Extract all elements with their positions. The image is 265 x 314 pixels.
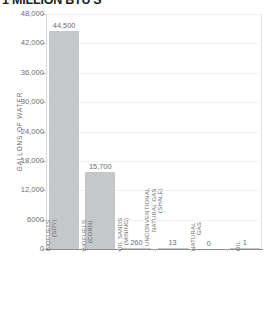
y-tick-label: 18,000 bbox=[4, 156, 44, 165]
y-tick-label: 48,000 bbox=[4, 9, 44, 18]
x-tick-mark bbox=[82, 249, 83, 252]
x-axis-label-text: NATURAL GAS bbox=[190, 222, 203, 251]
y-tick-label: 36,000 bbox=[4, 68, 44, 77]
bar-value-label: 15,700 bbox=[89, 162, 112, 171]
x-axis-label-text: OIL SANDS (MINING) bbox=[117, 218, 130, 251]
y-tick-label: 30,000 bbox=[4, 97, 44, 106]
x-axis-label-text: OIL bbox=[235, 241, 241, 251]
y-tick-label: 12,000 bbox=[4, 185, 44, 194]
y-tick-label: 6000 bbox=[4, 215, 44, 224]
x-axis-label: NATURAL GAS bbox=[191, 251, 227, 314]
x-tick-mark bbox=[118, 249, 119, 252]
bar bbox=[49, 31, 79, 249]
x-axis-labels: BIOFUELS (SOY)BIOFUELS (CORN)OIL SANDS (… bbox=[46, 251, 263, 314]
bar-value-label: 13 bbox=[168, 238, 176, 247]
bar-value-label: 1 bbox=[243, 238, 247, 247]
x-tick-mark bbox=[191, 249, 192, 252]
y-tick-label: 24,000 bbox=[4, 127, 44, 136]
x-axis-label-text: UNCONVENTIONAL NATURAL GAS (SHALE) bbox=[144, 188, 163, 251]
x-tick-mark bbox=[227, 249, 228, 252]
x-tick-mark bbox=[155, 249, 156, 252]
bar-value-label: 260 bbox=[130, 238, 142, 247]
x-axis-label: OIL SANDS (MINING) bbox=[118, 251, 154, 314]
x-axis-label-text: BIOFUELS (SOY) bbox=[45, 220, 58, 251]
x-axis-label: UNCONVENTIONAL NATURAL GAS (SHALE) bbox=[155, 251, 191, 314]
y-tick-label: 0 bbox=[4, 244, 44, 253]
bar-value-label: 44,500 bbox=[53, 21, 76, 30]
bar-value-label: 0 bbox=[207, 239, 211, 248]
x-axis-label-text: BIOFUELS (CORN) bbox=[81, 220, 94, 251]
x-axis-label: BIOFUELS (CORN) bbox=[82, 251, 118, 314]
y-tick-label: 42,000 bbox=[4, 38, 44, 47]
chart-title: 1 MILLION BTU'S bbox=[2, 0, 101, 7]
x-axis-label: BIOFUELS (SOY) bbox=[46, 251, 82, 314]
x-axis-label: OIL bbox=[227, 251, 263, 314]
